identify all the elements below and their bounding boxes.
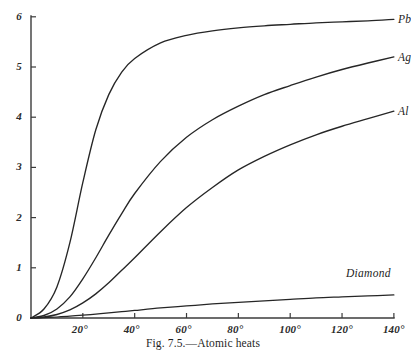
curve-label-ag: Ag xyxy=(398,51,411,63)
curve-label-al: Al xyxy=(398,105,409,117)
x-tick-label: 100° xyxy=(279,323,301,335)
axes-group xyxy=(31,16,394,318)
y-tick-label: 5 xyxy=(6,60,22,72)
x-tick-label: 20° xyxy=(72,323,88,335)
y-tick-label: 2 xyxy=(6,211,22,223)
y-tick-marks xyxy=(31,17,36,268)
y-tick-label: 3 xyxy=(6,160,22,172)
curve-label-diamond: Diamond xyxy=(346,267,391,279)
curve-al xyxy=(31,111,394,318)
y-tick-label: 6 xyxy=(6,10,22,22)
y-tick-label: 4 xyxy=(6,110,22,122)
x-tick-label: 80° xyxy=(227,323,243,335)
x-tick-marks xyxy=(83,313,394,318)
curves-group xyxy=(31,19,394,318)
x-tick-label: 60° xyxy=(176,323,192,335)
x-tick-label: 140° xyxy=(383,323,405,335)
x-tick-label: 40° xyxy=(124,323,140,335)
curve-label-pb: Pb xyxy=(398,13,411,25)
curve-diamond xyxy=(31,295,394,318)
figure-caption: Fig. 7.5.—Atomic heats xyxy=(0,337,406,349)
curve-pb xyxy=(31,19,394,318)
x-tick-label: 120° xyxy=(331,323,353,335)
y-tick-label: 0 xyxy=(6,311,22,323)
y-tick-label: 1 xyxy=(6,261,22,273)
